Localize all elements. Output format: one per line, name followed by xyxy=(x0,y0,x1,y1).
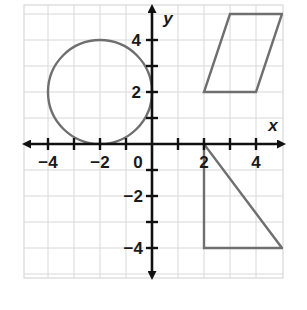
x-tick-label-neg2: −2 xyxy=(90,153,109,172)
y-tick-label-neg2: −2 xyxy=(124,187,143,206)
grid-border xyxy=(24,5,283,278)
x-tick-label-4: 4 xyxy=(251,153,261,172)
coordinate-plane-figure: −4 −2 2 4 4 2 −2 −4 0 x y xyxy=(0,0,307,310)
x-tick-label-neg4: −4 xyxy=(38,153,58,172)
y-tick-label-neg4: −4 xyxy=(124,239,144,258)
x-tick-label-2: 2 xyxy=(199,153,208,172)
origin-label: 0 xyxy=(133,153,142,172)
y-axis-label: y xyxy=(162,9,174,28)
coordinate-plane-svg: −4 −2 2 4 4 2 −2 −4 0 x y xyxy=(0,0,307,310)
y-tick-label-2: 2 xyxy=(132,83,141,102)
y-tick-label-4: 4 xyxy=(132,31,142,50)
grid-panel xyxy=(24,5,283,278)
x-axis-label: x xyxy=(267,116,279,135)
